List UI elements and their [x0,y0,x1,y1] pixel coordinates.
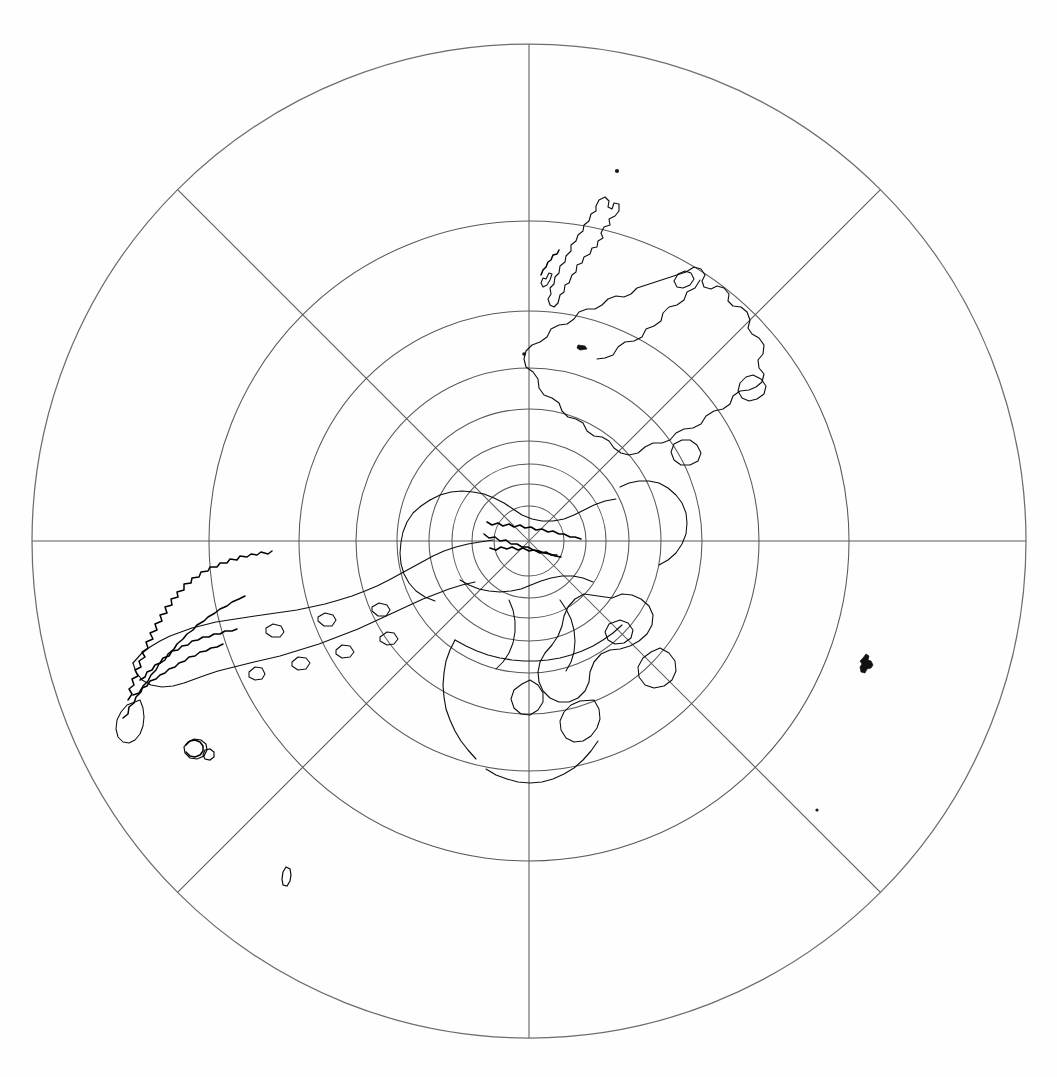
south-central-landmass-south-edge [486,741,598,783]
longitude-meridian-135 [529,541,880,892]
coastline-group [116,169,873,886]
isolated-islet-southwest [282,867,291,886]
longitude-meridians [32,44,1026,1038]
graticule-group [32,44,1026,1038]
eastern-coast-south-lobe [671,440,701,465]
longitude-meridian-45 [529,190,880,541]
western-peninsula-north-bays [266,603,390,637]
north-speck-islet [615,169,619,173]
western-fjord-lower-edge [123,596,245,718]
northeast-chain-lower-tail [541,273,552,287]
central-polar-coast-arc-east [620,481,687,565]
south-central-landmass-coast [455,625,622,661]
map-figure [0,0,1057,1077]
longitude-meridian-225 [178,541,529,892]
western-fjord-crenulation-b [133,644,223,695]
central-polar-coast-arc-south [460,576,593,592]
south-central-landmass-inlet [511,680,543,715]
longitude-meridian-315 [178,190,529,541]
western-peninsula-south-coast [133,582,475,687]
isolated-speck-lower-right [815,808,818,811]
western-peninsula-mid-inlets [249,632,398,680]
isolated-islet-east [860,654,873,673]
north-small-islet [577,345,587,350]
polar-map-canvas [0,0,1057,1077]
eastern-coast-inlet-group [597,280,700,359]
western-offshore-island-a-fringe [186,740,203,757]
eastern-coast-northern-cape [674,271,694,288]
northeast-chain-dense-segment [541,250,559,275]
eastern-coast-east-bay [738,375,766,401]
